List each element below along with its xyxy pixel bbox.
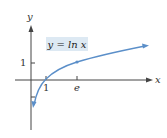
x-tick-label-1: 1 <box>43 83 49 93</box>
y-tick-label-1: 1 <box>20 58 26 68</box>
curve-arrow-down-icon <box>32 101 37 108</box>
x-axis-label: x <box>155 75 161 85</box>
ln-graph <box>0 0 167 138</box>
x-axis-arrow-icon <box>146 78 153 83</box>
y-axis-arrow-icon <box>29 25 34 32</box>
ln-curve <box>34 46 145 105</box>
x-tick-label-e: e <box>74 83 80 93</box>
curve-arrow-right-icon <box>142 44 149 49</box>
point-e-1 <box>75 60 78 63</box>
equation-label: y = ln x <box>46 37 88 51</box>
y-axis-label: y <box>27 12 33 22</box>
